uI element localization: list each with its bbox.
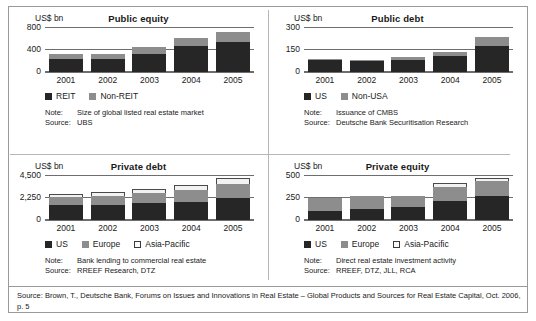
bar-segment-us xyxy=(308,60,342,72)
bar-2002[interactable] xyxy=(91,192,125,220)
x-tick-label: 2003 xyxy=(391,75,425,85)
source-text: RREEF, DTZ, JLL, RCA xyxy=(336,266,517,276)
bar-segment-europe xyxy=(433,187,467,201)
note-label: Note: xyxy=(45,108,77,118)
bar-segment-us xyxy=(433,201,467,220)
x-tick-label: 2004 xyxy=(174,223,208,233)
legend-item-reit[interactable]: REIT xyxy=(45,91,75,101)
bar-2003[interactable] xyxy=(391,196,425,220)
bar-2003[interactable] xyxy=(132,189,166,220)
legend-label: REIT xyxy=(56,91,75,101)
plot-area-private-equity: 0250500 xyxy=(304,172,513,220)
panel-grid: US$ bn Public equity 0400800 20012002200… xyxy=(9,7,527,312)
bar-2001[interactable] xyxy=(308,59,342,72)
bar-segment-reit xyxy=(49,59,83,72)
note-row: Note: Bank lending to commercial real es… xyxy=(45,256,258,266)
x-tick-label: 2005 xyxy=(475,223,509,233)
panel-public-equity: US$ bn Public equity 0400800 20012002200… xyxy=(9,7,268,155)
bar-segment-us xyxy=(49,205,83,220)
bar-2005[interactable] xyxy=(216,32,250,72)
bar-segment-europe xyxy=(91,196,125,205)
source-label: Source: xyxy=(304,118,336,128)
bar-2004[interactable] xyxy=(174,185,208,220)
bar-2002[interactable] xyxy=(91,54,125,72)
legend-item-non-usa[interactable]: Non-USA xyxy=(341,91,388,101)
y-tick-label: 0 xyxy=(295,215,300,223)
panel-public-debt: US$ bn Public debt 0150300 2001200220032… xyxy=(268,7,527,155)
plot-area-public-equity: 0400800 xyxy=(45,24,254,72)
legend-item-us[interactable]: US xyxy=(304,91,327,101)
notes-public-debt: Note: Issuance of CMBS Source: Deutsche … xyxy=(304,108,517,128)
note-row: Note: Direct real estate investment acti… xyxy=(304,256,517,266)
bar-segment-europe xyxy=(475,181,509,196)
bar-segment-europe xyxy=(216,184,250,198)
bar-group xyxy=(45,172,254,220)
note-label: Note: xyxy=(45,256,77,266)
y-tick-label: 800 xyxy=(27,23,41,31)
source-label: Source: xyxy=(304,266,336,276)
notes-public-equity: Note: Size of global listed real estate … xyxy=(45,108,258,128)
note-row: Note: Size of global listed real estate … xyxy=(45,108,258,118)
y-tick-label: 0 xyxy=(36,215,41,223)
legend-item-europe[interactable]: Europe xyxy=(82,239,120,249)
legend-private-equity: USEuropeAsia-Pacific xyxy=(304,239,517,249)
bar-2003[interactable] xyxy=(391,57,425,72)
legend-swatch-icon xyxy=(341,241,348,248)
bar-2002[interactable] xyxy=(350,60,384,72)
x-tick-label: 2002 xyxy=(91,75,125,85)
legend-swatch-icon xyxy=(341,93,348,100)
x-tick-label: 2003 xyxy=(132,75,166,85)
note-row: Note: Issuance of CMBS xyxy=(304,108,517,118)
legend-item-asia-pacific[interactable]: Asia-Pacific xyxy=(134,239,189,249)
x-tick-label: 2002 xyxy=(91,223,125,233)
source-text: RREEF Research, DTZ xyxy=(77,266,258,276)
legend-item-asia-pacific[interactable]: Asia-Pacific xyxy=(393,239,448,249)
note-label: Note: xyxy=(304,108,336,118)
x-tick-label: 2004 xyxy=(174,75,208,85)
x-axis-private-equity: 20012002200320042005 xyxy=(304,220,513,233)
bar-segment-reit xyxy=(216,42,250,72)
figure-source: Source: Brown, T., Deutsche Bank, Forums… xyxy=(9,290,527,312)
x-tick-label: 2001 xyxy=(49,223,83,233)
bar-segment-europe xyxy=(308,198,342,212)
y-tick-label: 250 xyxy=(286,193,300,201)
note-label: Note: xyxy=(304,256,336,266)
panel-private-equity: US$ bn Private equity 0250500 2001200220… xyxy=(268,155,527,286)
bar-2005[interactable] xyxy=(216,178,250,220)
bar-2004[interactable] xyxy=(174,38,208,72)
legend-label: Asia-Pacific xyxy=(404,239,448,249)
y-tick-label: 400 xyxy=(27,45,41,53)
legend-item-us[interactable]: US xyxy=(45,239,68,249)
bar-group xyxy=(45,24,254,72)
legend-item-europe[interactable]: Europe xyxy=(341,239,379,249)
note-text: Bank lending to commercial real estate xyxy=(77,256,258,266)
bar-2001[interactable] xyxy=(49,54,83,72)
bar-segment-us xyxy=(350,209,384,220)
bar-2005[interactable] xyxy=(475,178,509,220)
bar-segment-us xyxy=(391,60,425,72)
legend-label: Non-REIT xyxy=(100,91,138,101)
source-label: Source: xyxy=(45,266,77,276)
bar-2004[interactable] xyxy=(433,52,467,72)
legend-label: US xyxy=(315,91,327,101)
bar-2001[interactable] xyxy=(308,198,342,220)
y-tick-label: 4,500 xyxy=(20,171,41,179)
bar-group xyxy=(304,172,513,220)
panel-private-debt: US$ bn Private debt 02,2504,500 20012002… xyxy=(9,155,268,286)
legend-item-non-reit[interactable]: Non-REIT xyxy=(89,91,138,101)
x-tick-label: 2002 xyxy=(350,223,384,233)
bar-segment-reit xyxy=(91,59,125,72)
bar-2002[interactable] xyxy=(350,196,384,220)
legend-label: Europe xyxy=(352,239,379,249)
legend-swatch-icon xyxy=(304,241,311,248)
bar-2004[interactable] xyxy=(433,183,467,220)
legend-item-us[interactable]: US xyxy=(304,239,327,249)
bar-segment-us xyxy=(433,56,467,72)
bar-2005[interactable] xyxy=(475,37,509,72)
source-text: UBS xyxy=(77,118,258,128)
plot-area-public-debt: 0150300 xyxy=(304,24,513,72)
notes-private-debt: Note: Bank lending to commercial real es… xyxy=(45,256,258,276)
bar-2003[interactable] xyxy=(132,47,166,72)
bar-2001[interactable] xyxy=(49,194,83,220)
bar-segment-us xyxy=(475,46,509,72)
